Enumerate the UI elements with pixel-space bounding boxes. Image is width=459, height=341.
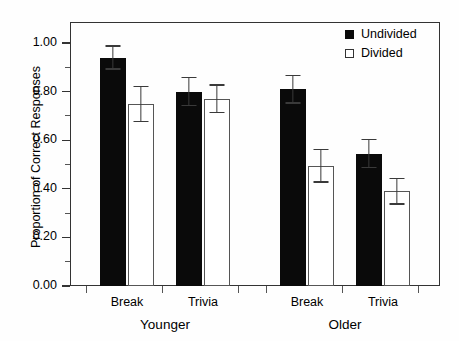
error-bar-divided-trivia (204, 84, 230, 113)
group-label-younger: Younger (105, 317, 225, 332)
x-tick (238, 286, 239, 293)
y-tick-0.20 (62, 237, 70, 238)
x-tick (162, 286, 163, 293)
error-bar-divided-break (128, 86, 154, 122)
bar-undivided-trivia-older (356, 154, 382, 286)
bar-undivided-trivia-younger (176, 92, 202, 286)
legend: Undivided Divided (345, 26, 417, 64)
legend-label-undivided: Undivided (361, 27, 417, 41)
y-tick-label: 0.40 (5, 182, 57, 194)
bar-undivided-break-older (280, 89, 306, 286)
bar-divided-trivia-older (384, 191, 410, 286)
x-tick (86, 286, 87, 293)
legend-item-divided: Divided (345, 45, 417, 61)
y-tick-0.00 (62, 285, 70, 286)
bar-divided-break-older (308, 166, 334, 286)
bar-divided-break-younger (128, 104, 154, 286)
x-label-trivia: Trivia (338, 295, 428, 309)
y-tick-label: 0.60 (5, 133, 57, 145)
filled-square-icon (345, 30, 354, 39)
y-tick-label: 0.20 (5, 230, 57, 242)
error-bar-divided-break (308, 149, 334, 183)
bar-undivided-break-younger (100, 58, 126, 286)
bar-chart-figure: Proportion of Correct Responses 0.000.20… (0, 0, 459, 341)
y-tick-0.60 (62, 140, 70, 141)
x-label-trivia: Trivia (158, 295, 248, 309)
y-tick-0.40 (62, 188, 70, 189)
open-square-icon (345, 49, 354, 58)
error-bar-undivided-break (280, 75, 306, 104)
x-tick (342, 286, 343, 293)
error-bar-undivided-trivia (176, 77, 202, 106)
y-tick-0.80 (62, 91, 70, 92)
y-tick-label: 0.80 (5, 85, 57, 97)
legend-label-divided: Divided (361, 46, 403, 60)
bar-divided-trivia-younger (204, 99, 230, 286)
y-tick-label: 1.00 (5, 36, 57, 48)
y-tick-label: 0.00 (5, 279, 57, 291)
error-bar-undivided-trivia (356, 139, 382, 168)
y-tick-1.00 (62, 42, 70, 43)
error-bar-divided-trivia (384, 178, 410, 205)
group-label-older: Older (285, 317, 405, 332)
x-tick (266, 286, 267, 293)
legend-item-undivided: Undivided (345, 26, 417, 42)
x-tick (418, 286, 419, 293)
error-bar-undivided-break (100, 45, 126, 69)
